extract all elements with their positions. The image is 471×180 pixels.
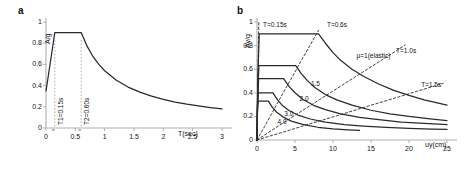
- x-tick-label: 10: [319, 145, 347, 152]
- y-tick-label: 1: [18, 18, 42, 25]
- panel-a-y-axis-label: A/g: [44, 33, 51, 44]
- curve-annotation: T=0.6s: [327, 21, 347, 28]
- y-tick-label: 0.6: [18, 60, 42, 67]
- x-tick-label: 15: [357, 145, 385, 152]
- chart-panel-b: b Ay/g uy(cm) 0510152025 00.20.40.60.81 …: [235, 0, 471, 180]
- curve-annotation: T=0.15s: [263, 21, 287, 28]
- x-tick-label: 25: [433, 145, 461, 152]
- y-tick-label: 0: [18, 124, 42, 131]
- y-tick-label: 0.4: [18, 82, 42, 89]
- curve-annotation: 4.0: [278, 118, 287, 125]
- x-tick-label: 5: [281, 145, 309, 152]
- x-tick-label: 0: [32, 133, 60, 140]
- curve-annotation: 3.0: [284, 110, 293, 117]
- curve-annotation: 1.5: [311, 80, 320, 87]
- curve-annotation: 2.0: [300, 95, 309, 102]
- series-path: [46, 33, 222, 109]
- curve-annotation: T=1.5s: [421, 81, 441, 88]
- x-tick-label: 0.5: [61, 133, 89, 140]
- curve-annotation: T2=0.60s: [83, 98, 90, 125]
- y-tick-label: 0.4: [229, 89, 253, 96]
- x-tick-label: 0: [243, 145, 271, 152]
- chart-panel-a: a A/g T(sec) 00.511.522.53 00.20.40.60.8…: [0, 0, 235, 180]
- figure-container: a A/g T(sec) 00.511.522.53 00.20.40.60.8…: [0, 0, 471, 180]
- y-tick-label: 0.2: [18, 103, 42, 110]
- x-tick-label: 2.5: [179, 133, 207, 140]
- panel-a-plot: [0, 0, 235, 180]
- x-tick-label: 1: [91, 133, 119, 140]
- y-tick-label: 1: [229, 18, 253, 25]
- curve-annotation: T1=0.15s: [57, 98, 64, 125]
- y-tick-label: 0: [229, 136, 253, 143]
- curve-annotation: T=1.0s: [396, 47, 416, 54]
- y-tick-label: 0.8: [18, 39, 42, 46]
- y-tick-label: 0.6: [229, 65, 253, 72]
- curve-annotation: μ=1(elastic): [357, 52, 391, 59]
- y-tick-label: 0.8: [229, 42, 253, 49]
- x-tick-label: 2: [149, 133, 177, 140]
- x-tick-label: 20: [395, 145, 423, 152]
- y-tick-label: 0.2: [229, 112, 253, 119]
- x-tick-label: 1.5: [120, 133, 148, 140]
